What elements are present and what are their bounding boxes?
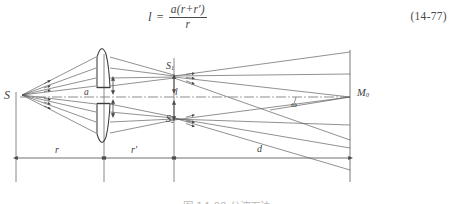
reference-lines	[16, 50, 350, 182]
label-M0-sub: 0	[366, 91, 369, 98]
ray-bundle-images-to-screen	[174, 52, 350, 170]
equation-number: (14-77)	[410, 10, 447, 22]
equation-fraction: a(r+r′) r	[169, 4, 207, 30]
optics-diagram: S S1 S2 M0 a l ω r r′ d 图 14-00 分波面法	[0, 40, 453, 204]
lens-upper-half	[97, 49, 110, 88]
label-image-S1: S1	[166, 61, 174, 72]
label-image-S2-sub: 2	[171, 117, 174, 124]
equation-numerator: a(r+r′)	[169, 4, 207, 17]
label-angle-omega: ω	[291, 100, 297, 109]
figure-caption: 图 14-00 分波面法	[0, 198, 453, 204]
equation-row: l = a(r+r′) r (14-77)	[0, 4, 453, 38]
label-dimension-d: d	[257, 144, 262, 154]
label-image-S2: S2	[166, 114, 174, 125]
label-image-S1-sub: 1	[171, 64, 174, 71]
label-M0-base: M	[357, 87, 366, 98]
lens-lower-half	[97, 104, 110, 143]
label-dimension-r: r	[55, 145, 59, 155]
label-source-S: S	[4, 89, 10, 101]
figure-page: l = a(r+r′) r (14-77)	[0, 0, 453, 204]
label-dimension-r-prime: r′	[131, 145, 137, 155]
label-lens-separation-a: a	[84, 88, 89, 98]
diagram-svg	[0, 40, 453, 204]
label-screen-point-M0: M0	[357, 88, 369, 99]
ray-bundle-lens-to-images	[110, 57, 174, 133]
angle-omega	[270, 97, 350, 110]
equation-lhs: l	[148, 9, 156, 25]
label-image-separation-l: l	[175, 88, 178, 98]
equation-14-77: l = a(r+r′) r	[148, 4, 207, 30]
equation-equals-sign: =	[156, 10, 169, 25]
equation-denominator: r	[183, 18, 192, 31]
